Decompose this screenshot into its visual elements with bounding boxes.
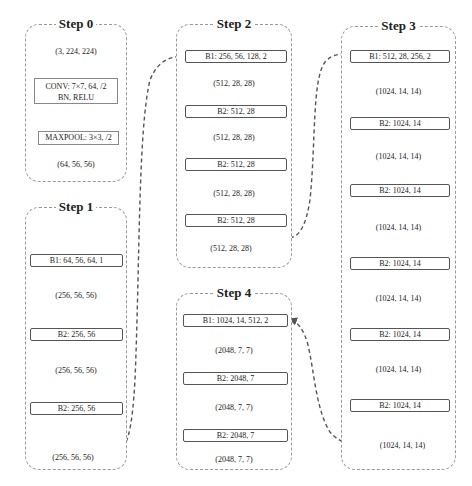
stage-title: Step 4 bbox=[177, 285, 291, 301]
block-b2: B2: 512, 28 bbox=[185, 158, 287, 171]
output-shape: (2048, 7, 7) bbox=[177, 455, 291, 465]
shape-label: (256, 56, 56) bbox=[26, 291, 126, 301]
shape-label: (512, 28, 28) bbox=[177, 133, 291, 143]
shape-label: (512, 28, 28) bbox=[177, 189, 291, 199]
conv-line-2: BN, RELU bbox=[35, 92, 117, 103]
shape-label: (1024, 14, 14) bbox=[342, 223, 455, 233]
stage-step-1: Step 1 B1: 64, 56, 64, 1 (256, 56, 56) B… bbox=[25, 207, 127, 470]
stage-title: Step 1 bbox=[26, 199, 126, 215]
shape-label: (512, 28, 28) bbox=[177, 79, 291, 89]
block-b2: B2: 512, 28 bbox=[185, 105, 287, 118]
block-b2: B2: 512, 28 bbox=[185, 214, 287, 227]
block-b1: B1: 256, 56, 128, 2 bbox=[185, 50, 287, 63]
block-b2: B2: 1024, 14 bbox=[350, 117, 450, 130]
conv-line-1: CONV: 7×7, 64, /2 bbox=[35, 81, 117, 92]
shape-label: (1024, 14, 14) bbox=[342, 87, 455, 97]
stage-step-2: Step 2 B1: 256, 56, 128, 2 (512, 28, 28)… bbox=[176, 24, 292, 268]
input-shape: (3, 224, 224) bbox=[26, 47, 126, 57]
block-b2: B2: 1024, 14 bbox=[350, 257, 450, 270]
stage-step-4: Step 4 B1: 1024, 14, 512, 2 (2048, 7, 7)… bbox=[176, 293, 292, 470]
conv-block: CONV: 7×7, 64, /2 BN, RELU bbox=[34, 78, 118, 104]
stage-step-0: Step 0 (3, 224, 224) CONV: 7×7, 64, /2 B… bbox=[25, 24, 127, 182]
block-b2: B2: 1024, 14 bbox=[350, 184, 450, 197]
block-b1: B1: 512, 28, 256, 2 bbox=[350, 50, 450, 63]
shape-label: (2048, 7, 7) bbox=[177, 346, 291, 356]
shape-label: (1024, 14, 14) bbox=[342, 294, 455, 304]
stage-title: Step 0 bbox=[26, 16, 126, 32]
block-b1: B1: 1024, 14, 512, 2 bbox=[183, 314, 288, 327]
shape-label: (2048, 7, 7) bbox=[177, 403, 291, 413]
shape-label: (1024, 14, 14) bbox=[342, 365, 455, 375]
block-b2: B2: 2048, 7 bbox=[183, 372, 288, 385]
output-shape: (256, 56, 56) bbox=[20, 453, 126, 463]
output-shape: (64, 56, 56) bbox=[26, 160, 126, 170]
stage-step-3: Step 3 B1: 512, 28, 256, 2 (1024, 14, 14… bbox=[341, 26, 456, 470]
stage-title: Step 3 bbox=[342, 18, 455, 34]
block-b1: B1: 64, 56, 64, 1 bbox=[30, 254, 123, 267]
block-b2: B2: 256, 56 bbox=[30, 328, 123, 341]
stage-title: Step 2 bbox=[177, 16, 291, 32]
shape-label: (256, 56, 56) bbox=[26, 366, 126, 376]
block-b2: B2: 2048, 7 bbox=[183, 429, 288, 442]
maxpool-block: MAXPOOL: 3×3, /2 bbox=[38, 131, 119, 145]
output-shape: (1024, 14, 14) bbox=[350, 441, 455, 451]
block-b2: B2: 256, 56 bbox=[30, 402, 123, 415]
output-shape: (512, 28, 28) bbox=[171, 244, 291, 254]
block-b2: B2: 1024, 14 bbox=[350, 328, 450, 341]
block-b2: B2: 1024, 14 bbox=[350, 399, 450, 412]
shape-label: (1024, 14, 14) bbox=[342, 152, 455, 162]
